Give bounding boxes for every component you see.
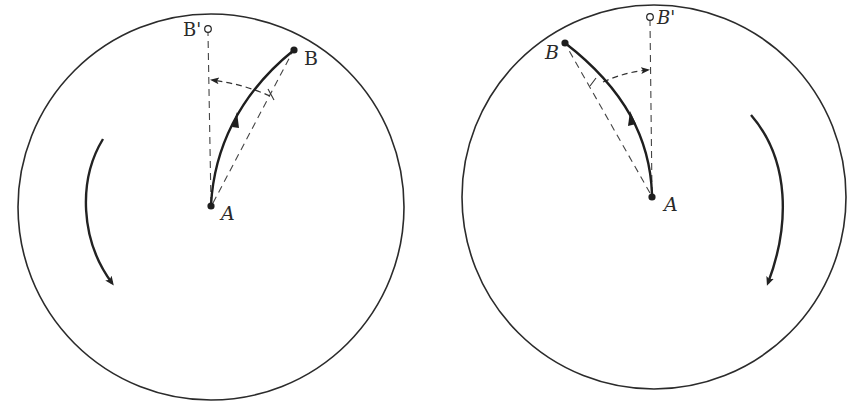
deflection-tick-left: [268, 89, 274, 100]
deflection-arc-right: [603, 70, 648, 82]
label-a-right: A: [662, 193, 678, 215]
coriolis-figure: A B B' A B B': [0, 0, 849, 408]
dashed-line-a-to-b-right: [567, 47, 650, 193]
dashed-line-a-to-bprime-left: [208, 33, 211, 204]
rotation-arrow-left: [86, 139, 112, 283]
right-panel: A B B': [462, 5, 846, 389]
point-b-left: [290, 46, 297, 53]
point-bprime-left: [205, 26, 212, 33]
point-bprime-right: [647, 14, 654, 21]
deflection-tick-right: [590, 78, 596, 86]
rotation-arrow-right: [751, 115, 783, 283]
label-a-left: A: [219, 202, 235, 224]
label-bprime-left: B': [183, 19, 201, 40]
dashed-line-a-to-b-left: [213, 53, 292, 203]
point-a-left: [207, 202, 214, 209]
label-b-left: B: [304, 47, 318, 69]
left-panel: A B B': [18, 14, 404, 400]
label-bprime-right: B': [656, 7, 675, 28]
point-a-right: [648, 193, 655, 200]
label-b-right: B: [544, 41, 559, 63]
point-b-right: [561, 39, 568, 46]
